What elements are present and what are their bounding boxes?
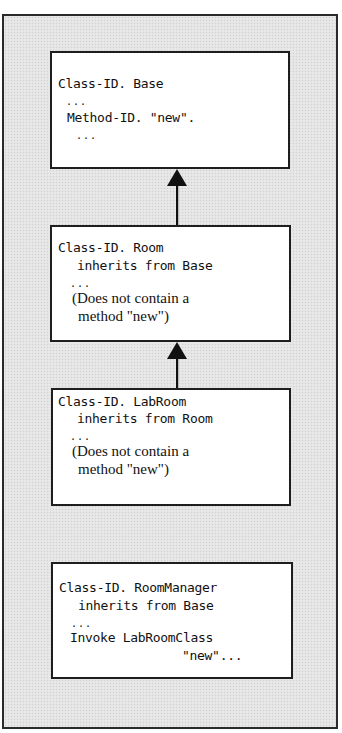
invoke-line: Invoke LabRoomClass bbox=[70, 631, 213, 644]
class-id-line: Class-ID. LabRoom bbox=[58, 395, 186, 408]
note-line: method "new") bbox=[78, 309, 169, 324]
class-id-line: Class-ID. Base bbox=[58, 77, 163, 90]
inherits-line: inherits from Base bbox=[78, 599, 213, 612]
inheritance-arrow-icon bbox=[166, 341, 188, 389]
class-box-base: Class-ID. Base ... Method-ID. "new". ... bbox=[50, 51, 290, 169]
class-box-labroom: Class-ID. LabRoom inherits from Room ...… bbox=[51, 388, 291, 506]
invoke-continuation-line: "new"... bbox=[182, 649, 242, 662]
ellipsis: ... bbox=[66, 97, 87, 107]
class-id-line: Class-ID. RoomManager bbox=[59, 581, 217, 594]
inherits-line: inherits from Room bbox=[77, 412, 212, 425]
class-id-line: Class-ID. Room bbox=[58, 241, 163, 254]
ellipsis: ... bbox=[76, 131, 97, 141]
method-id-line: Method-ID. "new". bbox=[67, 111, 195, 124]
ellipsis: ... bbox=[70, 432, 91, 442]
ellipsis: ... bbox=[71, 619, 92, 629]
note-line: method "new") bbox=[78, 462, 169, 477]
note-line: (Does not contain a bbox=[72, 291, 189, 306]
inherits-line: inherits from Base bbox=[77, 259, 212, 272]
class-box-roommanager: Class-ID. RoomManager inherits from Base… bbox=[51, 562, 293, 679]
class-box-room: Class-ID. Room inherits from Base ... (D… bbox=[50, 225, 291, 342]
inheritance-arrow-icon bbox=[166, 168, 188, 226]
ellipsis: ... bbox=[70, 279, 91, 289]
note-line: (Does not contain a bbox=[72, 444, 189, 459]
